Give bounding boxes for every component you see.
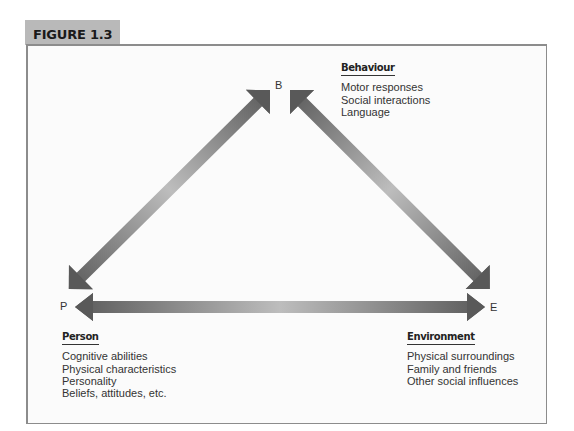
- environment-group: Environment Physical surroundings Family…: [407, 330, 518, 387]
- arrow-person-environment: [75, 293, 485, 321]
- node-label-e: E: [490, 301, 497, 313]
- person-group: Person Cognitive abilities Physical char…: [62, 330, 176, 399]
- list-item: Family and friends: [407, 363, 518, 375]
- behaviour-group: Behaviour Motor responses Social interac…: [341, 61, 430, 118]
- node-label-b: B: [275, 79, 282, 91]
- list-item: Motor responses: [341, 81, 430, 93]
- behaviour-list: Motor responses Social interactions Lang…: [341, 81, 430, 118]
- node-label-p: P: [60, 300, 67, 312]
- list-item: Beliefs, attitudes, etc.: [62, 387, 176, 399]
- list-item: Other social influences: [407, 375, 518, 387]
- list-item: Cognitive abilities: [62, 350, 176, 362]
- list-item: Physical characteristics: [62, 363, 176, 375]
- behaviour-heading: Behaviour: [341, 62, 395, 76]
- list-item: Personality: [62, 375, 176, 387]
- environment-heading: Environment: [407, 331, 475, 345]
- arrow-behaviour-person: [57, 78, 282, 301]
- list-item: Language: [341, 106, 430, 118]
- person-list: Cognitive abilities Physical characteris…: [62, 350, 176, 399]
- environment-list: Physical surroundings Family and friends…: [407, 350, 518, 387]
- person-heading: Person: [62, 331, 99, 345]
- list-item: Social interactions: [341, 94, 430, 106]
- list-item: Physical surroundings: [407, 350, 518, 362]
